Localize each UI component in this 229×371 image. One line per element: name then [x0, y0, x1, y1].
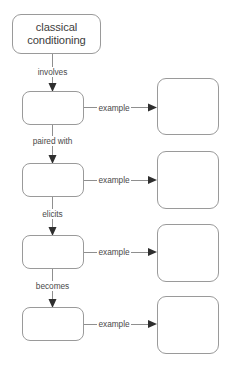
node-example-2[interactable] [157, 151, 219, 209]
arrowhead-right-3 [148, 248, 157, 256]
arrowhead-right-2 [148, 176, 157, 184]
concept-map-canvas: classical conditioning involves paired w… [0, 0, 229, 371]
node-label: classical conditioning [25, 21, 88, 48]
edge-label-involves: involves [36, 67, 69, 77]
node-chain-4[interactable] [22, 307, 84, 341]
node-chain-2[interactable] [22, 163, 84, 197]
edge-label-example-3: example [97, 247, 131, 257]
arrowhead-right-4 [148, 320, 157, 328]
node-classical-conditioning[interactable]: classical conditioning [12, 14, 101, 54]
edge-label-paired-with: paired with [31, 136, 74, 146]
edge-label-becomes: becomes [34, 281, 70, 291]
node-example-3[interactable] [157, 224, 219, 282]
node-example-1[interactable] [157, 78, 219, 135]
node-example-4[interactable] [157, 296, 219, 354]
node-chain-1[interactable] [22, 91, 84, 125]
edge-label-example-1: example [97, 103, 131, 113]
node-chain-3[interactable] [22, 235, 84, 269]
edge-label-example-4: example [97, 319, 131, 329]
edge-label-elicits: elicits [41, 209, 64, 219]
edge-label-example-2: example [97, 175, 131, 185]
arrowhead-right-1 [148, 104, 157, 112]
